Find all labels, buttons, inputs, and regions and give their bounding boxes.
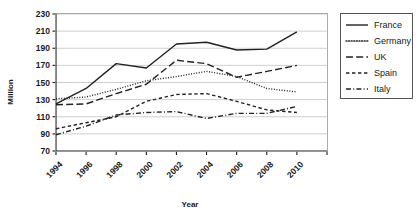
series-line-spain [56, 94, 297, 129]
x-tick-labels: 199419961998200020022004200620082010 [44, 159, 306, 180]
y-tick-label: 190 [36, 43, 50, 53]
x-tick-label: 1996 [74, 159, 95, 180]
y-tick-labels: 7090110130150170190210230 [36, 9, 50, 156]
x-axis-title: Year [182, 200, 199, 209]
y-tick-label: 230 [36, 9, 50, 19]
legend-label-spain: Spain [374, 68, 397, 78]
x-tick-label: 2010 [285, 159, 306, 180]
legend-label-uk: UK [374, 52, 387, 62]
series-line-italy [56, 106, 297, 134]
x-tick-label: 2004 [195, 159, 216, 180]
y-tick-label: 110 [36, 112, 50, 122]
legend-label-germany: Germany [374, 36, 412, 46]
x-tick-label: 2006 [225, 159, 246, 180]
line-chart: Million Year 7090110130150170190210230 1… [0, 0, 420, 218]
chart-canvas: Million Year 7090110130150170190210230 1… [0, 0, 420, 218]
y-axis-title: Million [6, 79, 15, 104]
x-tick-label: 2002 [164, 159, 185, 180]
y-tick-label: 130 [36, 95, 50, 105]
y-tick-label: 170 [36, 60, 50, 70]
data-series-group [56, 32, 297, 135]
x-tick-label: 1994 [44, 159, 65, 180]
x-tick-label: 1998 [104, 159, 125, 180]
y-tick-label: 90 [41, 129, 51, 139]
x-tick-label: 2000 [134, 159, 155, 180]
y-tick-label: 210 [36, 26, 50, 36]
x-tick-label: 2008 [255, 159, 276, 180]
y-tick-label: 150 [36, 78, 50, 88]
y-tick-label: 70 [41, 146, 51, 156]
legend-label-france: France [374, 20, 402, 30]
legend-label-italy: Italy [374, 84, 391, 94]
series-line-france [56, 32, 297, 104]
